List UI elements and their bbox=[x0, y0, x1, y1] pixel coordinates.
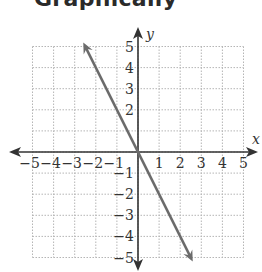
coordinate-plane: yx−5−4−3−2−1123455432−1−2−3−4−5 bbox=[0, 0, 262, 272]
y-tick-label: −3 bbox=[113, 207, 134, 223]
x-tick-label: 4 bbox=[218, 155, 227, 171]
x-tick-label: 5 bbox=[239, 155, 248, 171]
x-axis-label: x bbox=[252, 131, 260, 147]
y-tick-label: 2 bbox=[125, 102, 134, 118]
x-tick-label: −2 bbox=[82, 155, 103, 171]
x-tick-label: 3 bbox=[197, 155, 206, 171]
y-tick-label: 4 bbox=[125, 60, 134, 76]
x-tick-label: 2 bbox=[176, 155, 185, 171]
y-tick-label: −1 bbox=[113, 165, 134, 181]
y-tick-label: −5 bbox=[113, 250, 134, 266]
x-tick-label: −5 bbox=[19, 155, 40, 171]
y-tick-label: −2 bbox=[113, 186, 134, 202]
y-axis-label: y bbox=[145, 26, 155, 42]
y-tick-label: 5 bbox=[125, 39, 134, 55]
x-tick-label: −3 bbox=[61, 155, 82, 171]
x-tick-label: −4 bbox=[40, 155, 61, 171]
x-tick-label: 1 bbox=[155, 155, 164, 171]
y-tick-label: −4 bbox=[113, 228, 134, 244]
y-tick-label: 3 bbox=[125, 81, 134, 97]
